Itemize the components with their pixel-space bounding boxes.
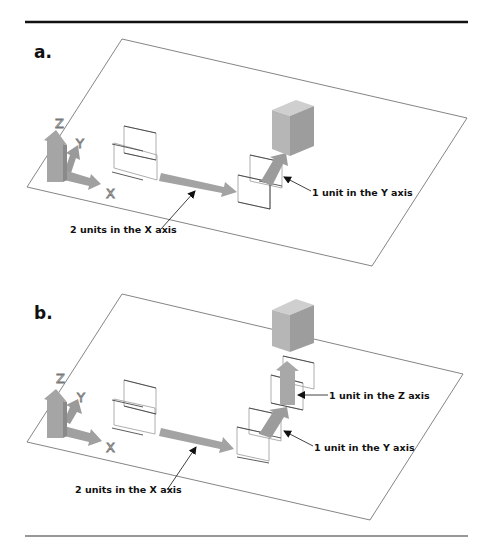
solid-cube — [272, 299, 314, 352]
axis-label-y: Y — [75, 136, 84, 151]
axis-label-z: Z — [55, 116, 64, 131]
axis-label-x: X — [106, 440, 115, 455]
panel-b: b. Z Y X — [27, 294, 463, 520]
x-axis-arrow-icon — [64, 426, 102, 446]
panel-a-label: a. — [34, 42, 52, 62]
axis-tripod: Z Y X — [44, 116, 115, 201]
z-translation-arrow-icon — [276, 361, 299, 405]
move-transform-diagram: a. Z Y X — [0, 0, 491, 553]
callout-z-axis: 1 unit in the Z axis — [329, 390, 430, 401]
y-translation-arrow-icon — [259, 407, 289, 438]
axis-label-z: Z — [56, 371, 65, 386]
panel-a: a. Z Y X — [27, 39, 467, 266]
callout-x-axis: 2 units in the X axis — [75, 484, 182, 495]
panel-b-label: b. — [34, 303, 53, 323]
axis-label-x: X — [106, 186, 115, 201]
axis-tripod: Z Y X — [44, 371, 115, 455]
wireframe-start-box — [112, 126, 157, 180]
x-axis-arrow-icon — [64, 170, 101, 190]
leader-line-y — [284, 177, 311, 191]
callout-x-axis: 2 units in the X axis — [70, 224, 177, 235]
x-translation-arrow-icon — [159, 173, 237, 197]
callout-y-axis: 1 unit in the Y axis — [314, 442, 415, 453]
callout-y-axis: 1 unit in the Y axis — [312, 187, 413, 198]
solid-cube — [272, 100, 314, 156]
wireframe-start-box — [112, 380, 156, 435]
leader-line-y — [284, 431, 313, 446]
axis-label-y: Y — [76, 390, 85, 405]
x-translation-arrow-icon — [159, 428, 234, 453]
